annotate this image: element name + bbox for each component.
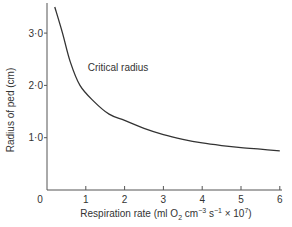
chart: 0123456 1·02·03·0 Critical radius Respir… [0, 0, 292, 227]
y-axis-label: Radius of ped (cm) [5, 68, 16, 152]
x-tick-label: 0 [37, 194, 43, 205]
x-tick-label: 2 [122, 194, 128, 205]
x-tick-label: 4 [199, 194, 205, 205]
x-axis-label: Respiration rate (ml O2 cm−3 s−1 × 107) [80, 207, 251, 221]
y-tick-label: 3·0 [29, 28, 44, 39]
critical-radius-label: Critical radius [88, 62, 149, 73]
axes [47, 3, 282, 190]
x-tick-label: 6 [277, 194, 283, 205]
y-tick-label: 1·0 [29, 132, 44, 143]
x-ticks: 0123456 [37, 186, 283, 205]
x-tick-label: 5 [238, 194, 244, 205]
critical-radius-curve [55, 7, 280, 151]
x-tick-label: 1 [83, 194, 89, 205]
x-tick-label: 3 [161, 194, 167, 205]
y-ticks: 1·02·03·0 [29, 28, 47, 144]
y-tick-label: 2·0 [29, 80, 44, 91]
